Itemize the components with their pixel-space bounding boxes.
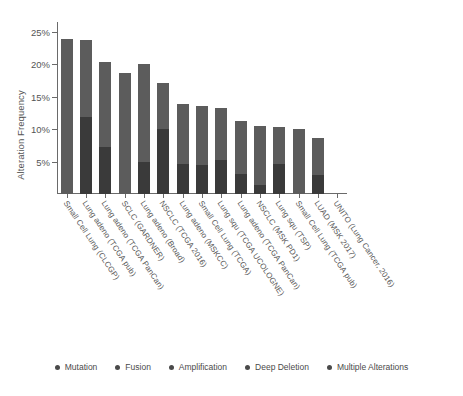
legend-color-swatch xyxy=(245,365,250,370)
x-axis-label: Lung squ (TSP) xyxy=(274,199,314,252)
bar-segment-mutation[interactable] xyxy=(99,147,111,194)
x-axis-label: SCLC (GARDNER) xyxy=(119,199,166,262)
bar-segment-mutation[interactable] xyxy=(254,185,266,194)
bar-segment-multiple-alterations[interactable] xyxy=(312,138,324,174)
y-axis-title: Alteration Frequency xyxy=(12,35,28,235)
x-tick-mark xyxy=(67,194,68,198)
bar[interactable] xyxy=(196,106,208,194)
legend-color-swatch xyxy=(327,365,332,370)
bar-segment-mutation[interactable] xyxy=(177,164,189,194)
bar-segment-mutation[interactable] xyxy=(196,165,208,194)
x-axis-label: LUAD (MSK 2017) xyxy=(313,199,358,260)
legend-color-swatch xyxy=(55,365,60,370)
bar-segment-mutation[interactable] xyxy=(157,129,169,194)
legend-item[interactable]: Multiple Alterations xyxy=(327,362,408,372)
x-tick-mark xyxy=(144,194,145,198)
x-tick-mark xyxy=(105,194,106,198)
bar[interactable] xyxy=(99,62,111,194)
x-tick-mark xyxy=(318,194,319,198)
bar-segment-multiple-alterations[interactable] xyxy=(138,64,150,161)
bar[interactable] xyxy=(235,121,247,194)
legend-label: Deep Deletion xyxy=(255,362,309,372)
bar-segment-mutation[interactable] xyxy=(80,117,92,194)
bar[interactable] xyxy=(80,40,92,194)
x-axis-label: Lung adeno (TCGA PanCan) xyxy=(235,199,301,291)
x-tick-mark xyxy=(241,194,242,198)
x-axis-label: UNITO (Lung Cancer, 2016) xyxy=(332,199,397,289)
y-tick-label: 5% xyxy=(36,156,50,167)
legend-label: Amplification xyxy=(179,362,227,372)
bar-segment-multiple-alterations[interactable] xyxy=(235,121,247,174)
bar-segment-multiple-alterations[interactable] xyxy=(157,83,169,129)
bar-segment-mutation[interactable] xyxy=(312,175,324,194)
bar[interactable] xyxy=(119,73,131,194)
x-axis-label: Small Cell Lung (TCGA pub) xyxy=(293,199,358,290)
bar[interactable] xyxy=(273,127,285,195)
legend-label: Mutation xyxy=(65,362,98,372)
bar-segment-mutation[interactable] xyxy=(138,162,150,194)
x-tick-mark xyxy=(125,194,126,198)
bar-segment-mutation[interactable] xyxy=(215,160,227,194)
y-tick-label: 15% xyxy=(31,91,50,102)
bar-segment-multiple-alterations[interactable] xyxy=(273,127,285,165)
bar-segment-multiple-alterations[interactable] xyxy=(177,104,189,164)
bar-segment-mutation[interactable] xyxy=(273,164,285,194)
bar[interactable] xyxy=(157,83,169,194)
bar[interactable] xyxy=(215,108,227,194)
x-axis-label: Small Cell Lung (CLCGP) xyxy=(61,199,121,282)
bar[interactable] xyxy=(254,126,266,194)
bar[interactable] xyxy=(293,129,305,194)
x-tick-mark xyxy=(86,194,87,198)
bar[interactable] xyxy=(312,138,324,194)
legend-item[interactable]: Fusion xyxy=(115,362,151,372)
legend-label: Fusion xyxy=(125,362,151,372)
bar-segment-multiple-alterations[interactable] xyxy=(99,62,111,147)
bar-segment-multiple-alterations[interactable] xyxy=(293,129,305,194)
legend-color-swatch xyxy=(169,365,174,370)
x-axis-label: NSCLC (TCGA 2016) xyxy=(158,199,209,269)
legend-item[interactable]: Amplification xyxy=(169,362,227,372)
bar[interactable] xyxy=(61,39,73,194)
chart-legend: MutationFusionAmplificationDeep Deletion… xyxy=(0,362,463,372)
bar[interactable] xyxy=(138,64,150,194)
bar[interactable] xyxy=(177,104,189,194)
bar-segment-multiple-alterations[interactable] xyxy=(61,39,73,194)
y-tick-label: 20% xyxy=(31,59,50,70)
x-axis-label: Lung adeno (MSKCC) xyxy=(177,199,229,271)
legend-item[interactable]: Mutation xyxy=(55,362,98,372)
bar-segment-mutation[interactable] xyxy=(235,174,247,194)
x-tick-mark xyxy=(202,194,203,198)
bar-segment-multiple-alterations[interactable] xyxy=(119,73,131,194)
x-tick-mark xyxy=(221,194,222,198)
x-tick-mark xyxy=(299,194,300,198)
x-axis-label: Lung adeno (TCGA PanCan) xyxy=(100,199,166,291)
y-tick-label: 10% xyxy=(31,124,50,135)
x-axis-label: Lung adeno (Broad) xyxy=(139,199,187,265)
x-axis-label: Lung squ (TCGA UCOLOGNE) xyxy=(216,199,286,297)
y-tick-label: 25% xyxy=(31,26,50,37)
x-axis-label: Lung adeno (TCGA pub) xyxy=(81,199,138,278)
bar-series-container xyxy=(57,22,347,194)
x-axis-label: Small Cell Lung (TCGA) xyxy=(197,199,254,277)
x-axis-label: NSCLC (MSK PD1) xyxy=(255,199,302,263)
x-tick-mark xyxy=(260,194,261,198)
y-axis-title-container: Alteration Frequency xyxy=(8,35,24,195)
x-tick-mark xyxy=(183,194,184,198)
x-tick-mark xyxy=(163,194,164,198)
legend-color-swatch xyxy=(115,365,120,370)
bar-segment-multiple-alterations[interactable] xyxy=(196,106,208,165)
x-tick-mark xyxy=(337,194,338,198)
legend-item[interactable]: Deep Deletion xyxy=(245,362,309,372)
chart-root: Alteration Frequency 5%10%15%20%25% Smal… xyxy=(0,0,463,396)
bar-segment-multiple-alterations[interactable] xyxy=(80,40,92,117)
bar-segment-multiple-alterations[interactable] xyxy=(215,108,227,160)
bar-segment-multiple-alterations[interactable] xyxy=(254,126,266,185)
legend-label: Multiple Alterations xyxy=(337,362,408,372)
x-tick-mark xyxy=(279,194,280,198)
plot-area: 5%10%15%20%25% xyxy=(57,22,347,194)
